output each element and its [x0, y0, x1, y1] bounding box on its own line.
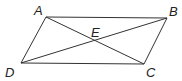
label-c: C — [146, 65, 156, 80]
label-d: D — [5, 65, 14, 80]
label-e: E — [91, 25, 100, 40]
parallelogram-diagram: A B E D C — [0, 0, 182, 81]
label-b: B — [169, 4, 178, 19]
side-bc — [144, 18, 167, 64]
label-a: A — [33, 3, 43, 18]
side-ab — [46, 17, 167, 18]
side-cd — [21, 63, 144, 64]
